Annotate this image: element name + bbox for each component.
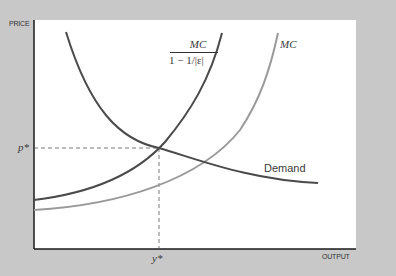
pstar-label: p*	[18, 141, 29, 153]
y-axis-label: PRICE	[9, 20, 29, 27]
markup-denominator: 1 − 1/|ε|	[169, 54, 204, 66]
ystar-label: y*	[152, 252, 162, 264]
demand-label: Demand	[264, 162, 306, 174]
x-axis-label: OUTPUT	[322, 253, 350, 260]
mc-label: MC	[280, 38, 297, 50]
mc-curve	[34, 33, 278, 210]
markup-numerator: MC	[178, 38, 218, 50]
fraction-bar	[170, 52, 218, 53]
